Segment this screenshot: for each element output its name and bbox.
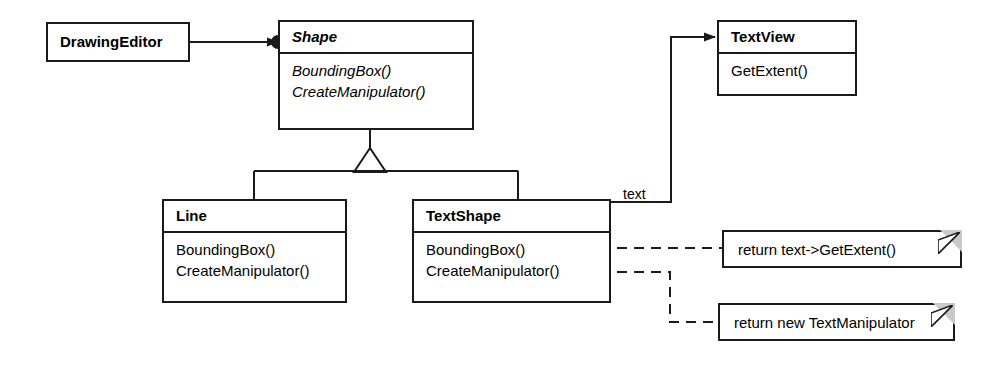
class-box-text-view[interactable]: TextView GetExtent() — [717, 20, 857, 96]
operation-item: CreateManipulator() — [426, 261, 597, 282]
class-box-shape[interactable]: Shape BoundingBox() CreateManipulator() — [278, 20, 474, 130]
note-text: return new TextManipulator — [720, 305, 953, 340]
edge-drawingeditor-shape — [190, 35, 285, 49]
class-name-shape: Shape — [280, 22, 472, 52]
class-box-line[interactable]: Line BoundingBox() CreateManipulator() — [162, 199, 347, 303]
class-name-text-shape: TextShape — [414, 201, 609, 231]
uml-class-diagram: Shape : association with filled end dot … — [0, 0, 987, 368]
class-name-drawing-editor: DrawingEditor — [48, 24, 188, 59]
class-box-drawing-editor[interactable]: DrawingEditor — [46, 22, 190, 62]
operation-item: BoundingBox() — [176, 240, 333, 261]
edge-generalization-shape — [254, 130, 518, 199]
class-name-line: Line — [164, 201, 345, 231]
operations-shape: BoundingBox() CreateManipulator() — [280, 54, 472, 110]
note-fold-flap-icon — [931, 305, 953, 327]
operation-item: CreateManipulator() — [292, 82, 460, 103]
operations-text-shape: BoundingBox() CreateManipulator() — [414, 233, 609, 289]
operation-item: BoundingBox() — [292, 61, 460, 82]
note-bounding-box[interactable]: return text->GetExtent() — [722, 230, 962, 268]
operation-item: CreateManipulator() — [176, 261, 333, 282]
edge-textshape-textview — [611, 37, 715, 202]
class-box-text-shape[interactable]: TextShape BoundingBox() CreateManipulato… — [412, 199, 611, 303]
note-create-manipulator[interactable]: return new TextManipulator — [718, 303, 955, 341]
note-fold-flap-icon — [938, 232, 960, 254]
operations-line: BoundingBox() CreateManipulator() — [164, 233, 345, 289]
operation-item: GetExtent() — [731, 61, 843, 82]
operation-item: BoundingBox() — [426, 240, 597, 261]
operations-text-view: GetExtent() — [719, 54, 855, 90]
note-text: return text->GetExtent() — [724, 232, 960, 267]
class-name-text-view: TextView — [719, 22, 855, 52]
association-label-text: text — [621, 187, 648, 201]
